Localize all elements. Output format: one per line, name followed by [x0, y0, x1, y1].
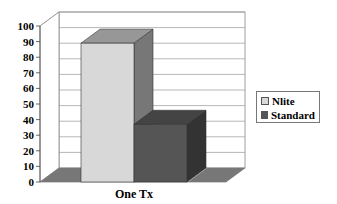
y-tick-label: 50	[23, 98, 35, 110]
legend-label-nlite: Nlite	[272, 95, 295, 107]
y-axis: 0102030405060708090100	[18, 20, 41, 188]
legend-swatch-standard	[261, 111, 268, 119]
legend-swatch-nlite	[261, 97, 269, 105]
legend-item-standard: Standard	[261, 108, 315, 122]
legend-label-standard: Standard	[271, 109, 315, 121]
y-tick-label: 100	[18, 20, 35, 32]
legend-item-nlite: Nlite	[261, 94, 315, 108]
y-tick-label: 30	[23, 129, 35, 141]
legend: Nlite Standard	[256, 91, 320, 123]
y-tick-label: 60	[23, 82, 35, 94]
category-label: One Tx	[115, 187, 153, 201]
bar-standard	[134, 110, 206, 182]
y-tick-label: 20	[23, 145, 35, 157]
y-tick-label: 10	[23, 160, 35, 172]
y-tick-label: 80	[23, 51, 35, 63]
y-tick-label: 40	[23, 114, 35, 126]
y-tick-label: 0	[29, 176, 35, 188]
side-wall	[40, 12, 59, 182]
y-tick-label: 70	[23, 67, 35, 79]
y-tick-label: 90	[23, 36, 35, 48]
